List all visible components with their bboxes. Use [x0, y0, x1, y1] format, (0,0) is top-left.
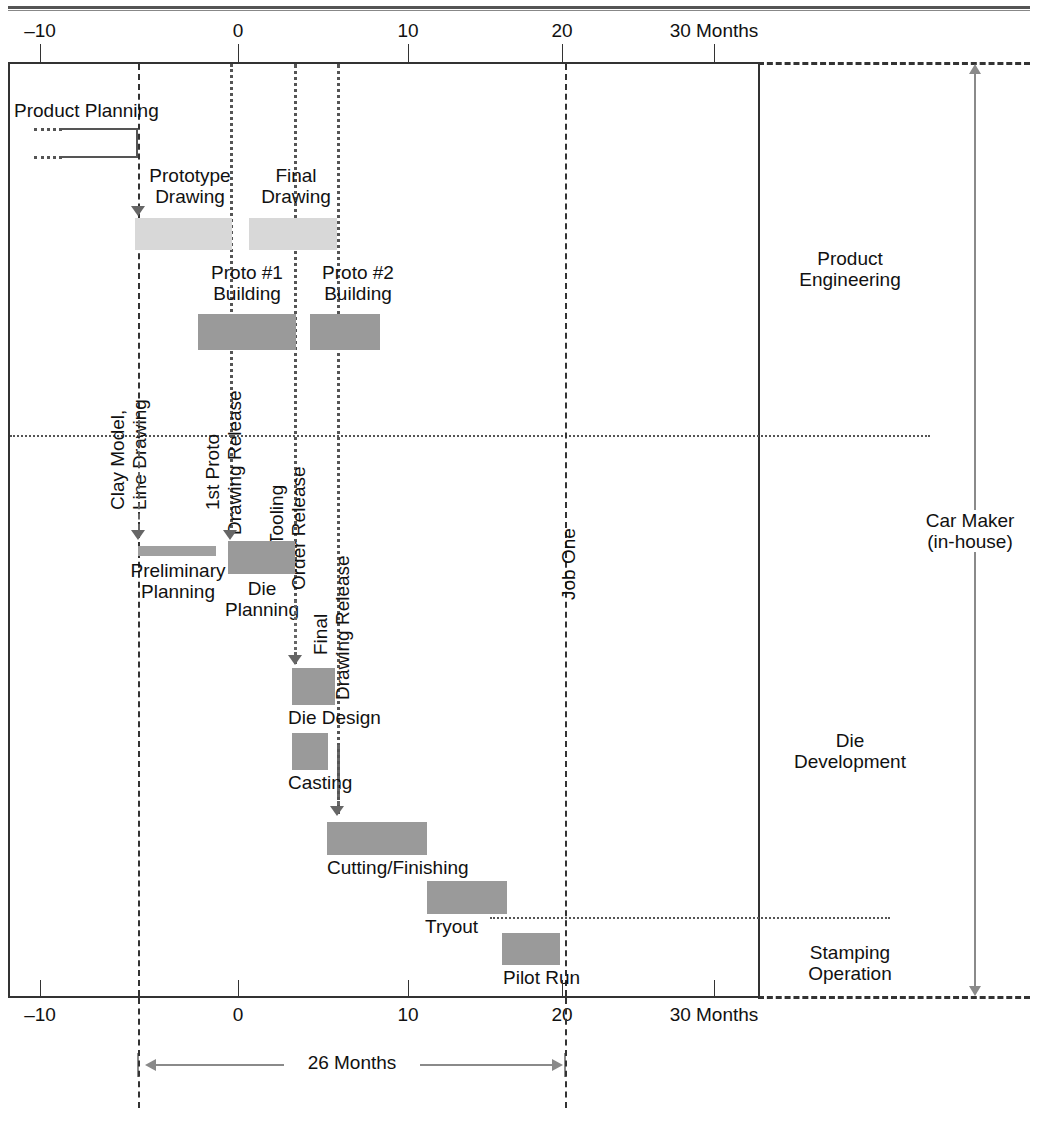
- frame-bottom-dashed-extension: [758, 996, 1030, 999]
- task-label-casting: Casting: [288, 772, 352, 793]
- connector-clay-to-preliminary: [138, 420, 140, 530]
- milestone-label-final: Final: [310, 614, 331, 655]
- frame-left-border: [8, 62, 10, 998]
- span-line-right: [420, 1064, 554, 1066]
- task-label-final-drawing: Final Drawing: [246, 165, 346, 207]
- bottom-tick-minus10: [40, 980, 41, 996]
- task-label-proto1-building: Proto #1 Building: [197, 262, 297, 304]
- task-label-proto1-line1: Proto #1: [211, 262, 283, 283]
- frame-top-dashed-extension: [758, 62, 1030, 65]
- milestone-clay-model-line1: Clay Model,: [107, 410, 128, 510]
- milestone-arrow-cutting-finishing: [330, 806, 344, 816]
- swimlane-dd-line1: Die: [836, 730, 865, 751]
- frame-right-border: [758, 62, 760, 998]
- bottom-tick-10: [408, 980, 409, 996]
- top-tick-30: [714, 44, 715, 62]
- swimlane-pe-line1: Product: [817, 248, 882, 269]
- task-label-prototype-drawing-line1: Prototype: [149, 165, 230, 186]
- bottom-axis-tick-label-minus10: –10: [0, 1004, 90, 1026]
- bottom-axis-tick-label-0: 0: [188, 1004, 288, 1026]
- bar-die-design: [292, 668, 335, 705]
- product-planning-dotted-lead-2: [34, 156, 62, 159]
- span-label-26-months: 26 Months: [284, 1052, 420, 1073]
- span-arrow-right: [552, 1059, 563, 1071]
- bar-preliminary-planning: [138, 546, 216, 556]
- bottom-axis-tick-label-30: 30 Months: [639, 1004, 789, 1026]
- top-axis-tick-label-10: 10: [358, 20, 458, 42]
- bottom-tick-0: [238, 980, 239, 996]
- milestone-label-job-one: Job One: [558, 528, 579, 600]
- bar-prototype-drawing: [135, 218, 232, 250]
- milestone-arrow-die-design: [288, 655, 302, 665]
- product-planning-line-2: [60, 156, 138, 158]
- bar-proto1-building: [198, 314, 296, 350]
- swimlane-label-stamping-operation: Stamping Operation: [790, 942, 910, 984]
- milestone-arrow-die-planning: [223, 530, 237, 540]
- bottom-tick-20: [562, 980, 563, 996]
- task-label-die-planning-line1: Die: [248, 578, 277, 599]
- top-axis-tick-label-0: 0: [188, 20, 288, 42]
- task-label-prototype-drawing-line2: Drawing: [155, 186, 225, 207]
- bottom-axis-tick-label-20: 20: [512, 1004, 612, 1026]
- gantt-chart-figure: –10 0 10 20 30 Months Product Planning P…: [0, 0, 1038, 1126]
- task-label-final-drawing-line1: Final: [275, 165, 316, 186]
- milestone-first-proto-line2: Drawing Release: [224, 390, 245, 535]
- task-label-die-planning: Die Planning: [212, 578, 312, 620]
- bracket-label-line2: (in-house): [927, 531, 1013, 552]
- figure-top-rule-secondary: [8, 10, 1030, 11]
- task-label-product-planning: Product Planning: [14, 100, 159, 121]
- figure-top-rule: [8, 6, 1030, 9]
- milestone-final-release-line2: Drawing Release: [332, 555, 353, 700]
- top-axis-tick-label-30: 30 Months: [639, 20, 789, 42]
- task-label-die-design: Die Design: [288, 707, 381, 728]
- bar-tryout: [427, 881, 507, 914]
- swimlane-label-die-development: Die Development: [790, 730, 910, 772]
- milestone-arrow-preliminary-planning: [131, 530, 145, 540]
- product-planning-line-1: [60, 128, 138, 130]
- product-planning-end-cap: [136, 128, 138, 158]
- milestone-tooling-line1: Tooling: [266, 485, 287, 545]
- task-label-die-planning-line2: Planning: [225, 599, 299, 620]
- connector-tooling-to-die-design: [294, 600, 297, 655]
- product-planning-dotted-lead-1: [34, 128, 62, 131]
- connector-final-release-to-cutting: [337, 745, 340, 805]
- bracket-label-car-maker: Car Maker (in-house): [905, 510, 1035, 552]
- top-tick-10: [408, 44, 409, 62]
- task-label-proto2-line1: Proto #2: [322, 262, 394, 283]
- milestone-first-proto-line1: 1st Proto: [202, 434, 223, 510]
- swimlane-pe-line2: Engineering: [799, 269, 900, 290]
- swimlane-so-line1: Stamping: [810, 942, 890, 963]
- bracket-label-line1: Car Maker: [926, 510, 1015, 531]
- task-label-proto2-line2: Building: [324, 283, 392, 304]
- bar-pilot-run: [502, 933, 560, 965]
- task-label-tryout: Tryout: [425, 916, 478, 937]
- milestone-label-final-drawing-release: Drawing Release: [332, 555, 353, 700]
- top-axis-tick-label-minus10: –10: [0, 20, 90, 42]
- milestone-label-first-proto-release: Drawing Release: [224, 390, 245, 535]
- top-tick-minus10: [40, 44, 41, 62]
- bar-final-drawing: [249, 218, 337, 250]
- swimlane-label-product-engineering: Product Engineering: [790, 248, 910, 290]
- task-label-proto2-building: Proto #2 Building: [308, 262, 408, 304]
- swimlane-dd-line2: Development: [794, 751, 906, 772]
- task-label-pilot-run: Pilot Run: [503, 967, 580, 988]
- bar-cutting-finishing: [327, 822, 427, 855]
- bar-proto2-building: [310, 314, 380, 350]
- milestone-arrow-prototype-drawing: [131, 206, 145, 216]
- bar-casting: [292, 733, 328, 770]
- milestone-label-clay-model: Clay Model,: [107, 410, 128, 510]
- span-line-left: [154, 1064, 284, 1066]
- task-label-preliminary-line2: Planning: [141, 581, 215, 602]
- bottom-axis-tick-label-10: 10: [358, 1004, 458, 1026]
- frame-bottom-border: [8, 996, 760, 998]
- top-tick-20: [562, 44, 563, 62]
- task-label-cutting-finishing: Cutting/Finishing: [327, 857, 469, 878]
- span-guide-left: [138, 998, 140, 1108]
- span-guide-right: [565, 998, 567, 1108]
- task-label-final-drawing-line2: Drawing: [261, 186, 331, 207]
- milestone-final-release-line1: Final: [310, 614, 331, 655]
- milestone-label-first-proto: 1st Proto: [202, 434, 223, 510]
- bracket-arrow-bottom: [969, 986, 981, 996]
- frame-top-border: [8, 62, 760, 64]
- bar-die-planning: [228, 541, 295, 574]
